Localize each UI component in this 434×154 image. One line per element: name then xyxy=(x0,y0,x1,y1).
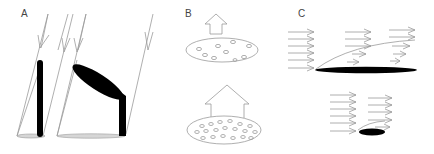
diagram-canvas xyxy=(0,0,434,154)
large-up-arrow xyxy=(205,85,249,119)
disk-dense-pores xyxy=(187,116,261,144)
panel-c-wind-arrows xyxy=(288,27,415,134)
panel-b xyxy=(186,14,261,144)
tilted-elliptical-leaf xyxy=(68,59,127,136)
small-up-arrow xyxy=(205,14,227,34)
short-flat-leaf xyxy=(359,129,385,136)
long-flat-leaf xyxy=(315,67,417,73)
ground-shadow-large xyxy=(57,134,125,138)
upright-stem-leaf xyxy=(37,60,43,137)
